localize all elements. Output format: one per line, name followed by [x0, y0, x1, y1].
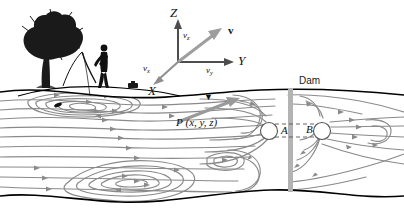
point-p-letter: P	[176, 116, 183, 128]
axis-label-y: Y	[238, 54, 245, 67]
axis-label-x: X	[148, 84, 156, 97]
resultant-vector-label: v	[228, 25, 234, 36]
vz-subscript: z	[187, 34, 190, 41]
point-a-label: A	[281, 125, 288, 136]
point-b-label: B	[306, 124, 313, 135]
velocity-component-vx: vx	[143, 64, 150, 74]
dam-label: Dam	[299, 76, 320, 86]
axis-label-z: Z	[170, 6, 177, 19]
vx-subscript: x	[147, 67, 150, 74]
point-p-coords: (x, y, z)	[185, 116, 217, 128]
river-flow-figure: Z Y X vz vy vx v P (x, y, z) A B Dam ▼ r…	[0, 0, 404, 215]
coordinate-axes-layer	[0, 0, 404, 215]
velocity-component-vz: vz	[183, 31, 190, 41]
axis-z	[174, 19, 182, 62]
velocity-direction-marker: ▼	[204, 93, 213, 102]
vy-subscript: y	[210, 69, 213, 76]
velocity-component-vy: vy	[206, 66, 213, 76]
point-p-label: P (x, y, z)	[176, 117, 217, 128]
axis-x	[153, 62, 178, 85]
